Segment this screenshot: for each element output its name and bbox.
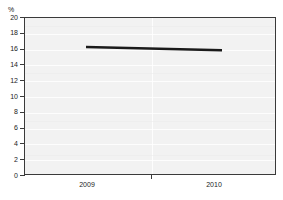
- y-tick-label: 10: [0, 93, 18, 100]
- y-tick-label: 12: [0, 77, 18, 84]
- y-tick-label: 18: [0, 29, 18, 36]
- y-tick: [20, 112, 25, 113]
- y-axis-unit-label: %: [8, 6, 14, 13]
- y-tick: [20, 17, 25, 18]
- y-tick: [20, 159, 25, 160]
- y-tick-label: 2: [0, 156, 18, 163]
- y-tick: [20, 128, 25, 129]
- y-tick: [20, 96, 25, 97]
- x-tick-label: 2009: [67, 181, 107, 188]
- y-tick-label: 16: [0, 45, 18, 52]
- y-tick: [20, 80, 25, 81]
- y-tick-label: 8: [0, 108, 18, 115]
- y-tick-label: 0: [0, 172, 18, 179]
- line-chart: % 20 18 16 14 12 10 8 6 4 2 0 2009 2010: [0, 0, 283, 200]
- y-tick-label: 6: [0, 124, 18, 131]
- y-tick-label: 14: [0, 61, 18, 68]
- y-tick: [20, 143, 25, 144]
- y-tick: [20, 33, 25, 34]
- y-tick-label: 20: [0, 14, 18, 21]
- y-tick: [20, 49, 25, 50]
- y-tick: [20, 64, 25, 65]
- y-tick-label: 4: [0, 140, 18, 147]
- x-tick: [151, 175, 152, 179]
- data-series-line: [24, 17, 276, 175]
- y-tick: [20, 175, 25, 176]
- x-tick-label: 2010: [194, 181, 234, 188]
- chart-title: [0, 0, 283, 3]
